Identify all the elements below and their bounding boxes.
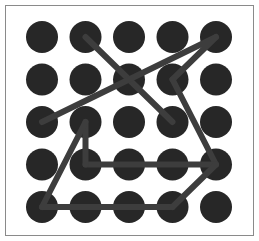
node-r3c5[interactable] [200,106,232,138]
node-r2c5[interactable] [200,64,232,96]
node-r3c3[interactable] [113,106,145,138]
node-r1c1[interactable] [26,21,58,53]
node-r2c2[interactable] [70,64,102,96]
pattern-lock-app [0,0,259,241]
node-r1c4[interactable] [157,21,189,53]
node-r1c3[interactable] [113,21,145,53]
node-r5c5[interactable] [200,191,232,223]
pattern-canvas[interactable] [0,0,259,241]
node-r4c1[interactable] [26,149,58,181]
node-r2c1[interactable] [26,64,58,96]
